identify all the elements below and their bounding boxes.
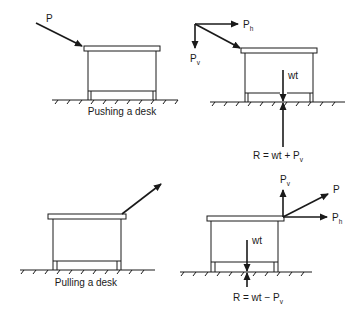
- force-diagram: P Pushing a desk Ph Pv wt R = wt + Pv: [0, 0, 360, 310]
- label-reaction: R = wt − Pv: [233, 292, 284, 305]
- push-force-label: P: [46, 13, 53, 24]
- ground-hatch: [20, 270, 155, 274]
- ground-hatch: [52, 100, 178, 104]
- resultant-force-arrow: [195, 24, 240, 48]
- desk: [48, 214, 126, 270]
- caption-pulling: Pulling a desk: [55, 277, 118, 288]
- label-reaction: R = wt + Pv: [253, 150, 304, 163]
- desk: [207, 216, 284, 272]
- label-pv: Pv: [280, 174, 291, 187]
- caption-pushing: Pushing a desk: [88, 106, 157, 117]
- label-p: P: [333, 184, 340, 195]
- resultant-force-arrow: [283, 194, 328, 217]
- desk: [241, 48, 317, 102]
- ground-hatch: [180, 272, 312, 276]
- panel-pushing-desk: P Pushing a desk: [36, 13, 178, 117]
- panel-pulling-desk: Pulling a desk: [20, 184, 161, 288]
- push-force-arrow: [36, 23, 82, 46]
- label-wt: wt: [251, 235, 262, 246]
- pull-force-arrow: [122, 184, 161, 214]
- label-wt: wt: [287, 70, 298, 81]
- panel-pull-components: Pv P Ph wt R = wt − Pv: [180, 174, 343, 305]
- label-ph: Ph: [243, 19, 254, 32]
- label-ph: Ph: [332, 212, 343, 225]
- ground-hatch: [210, 102, 345, 106]
- desk: [84, 46, 160, 100]
- panel-push-components: Ph Pv wt R = wt + Pv: [190, 19, 345, 163]
- label-pv: Pv: [190, 53, 201, 66]
